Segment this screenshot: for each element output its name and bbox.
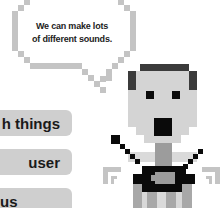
neck bbox=[155, 152, 172, 162]
menu-button-label: h things bbox=[2, 115, 60, 132]
right-drumstick bbox=[193, 154, 198, 159]
menu-button-us[interactable]: us bbox=[0, 188, 72, 208]
left-bracket-icon bbox=[111, 179, 114, 184]
hair bbox=[128, 78, 136, 90]
bubble-tail bbox=[106, 75, 112, 81]
drum-head bbox=[155, 172, 175, 184]
speech-bubble-text: We can make lots of different sounds. bbox=[22, 20, 122, 46]
drum-stripe bbox=[133, 184, 142, 208]
hair bbox=[189, 78, 197, 90]
right-drumstick bbox=[198, 149, 203, 154]
bubble-tail bbox=[106, 69, 112, 75]
bubble-edge bbox=[18, 5, 24, 11]
menu-button-label: user bbox=[28, 154, 60, 171]
face bbox=[136, 78, 189, 90]
bubble-edge bbox=[112, 63, 118, 69]
bubble-edge bbox=[24, 0, 30, 5]
drum-stripe bbox=[166, 192, 176, 208]
right-bracket-icon bbox=[209, 179, 212, 184]
menu-button-label: us bbox=[0, 193, 18, 209]
bubble-edge bbox=[124, 5, 130, 11]
bubble-edge bbox=[118, 57, 124, 63]
bubble-edge bbox=[124, 51, 130, 57]
bubble-edge bbox=[130, 11, 136, 51]
speech-line-2: of different sounds. bbox=[22, 33, 122, 46]
drum-stripe bbox=[147, 192, 157, 208]
menu-button-things[interactable]: h things bbox=[0, 110, 72, 136]
left-drumstick bbox=[111, 135, 120, 144]
left-eye bbox=[146, 91, 154, 99]
right-drumstick bbox=[188, 159, 193, 164]
mouth bbox=[154, 118, 172, 136]
speech-line-1: We can make lots bbox=[22, 20, 122, 33]
bubble-edge bbox=[30, 63, 82, 69]
left-drumstick bbox=[135, 159, 140, 164]
right-eye bbox=[172, 91, 180, 99]
drum-stripe bbox=[182, 184, 192, 208]
bubble-tail bbox=[100, 76, 106, 82]
face bbox=[136, 71, 189, 78]
bubble-tail bbox=[100, 87, 106, 93]
right-bracket-icon bbox=[215, 172, 220, 184]
drum-stripe bbox=[157, 192, 166, 208]
drum-head bbox=[151, 175, 155, 181]
bubble-edge bbox=[118, 0, 124, 5]
face bbox=[144, 135, 181, 143]
bubble-edge bbox=[12, 11, 18, 51]
left-bracket-icon bbox=[103, 172, 108, 184]
menu-button-user[interactable]: user bbox=[0, 149, 72, 175]
hair bbox=[140, 64, 189, 71]
